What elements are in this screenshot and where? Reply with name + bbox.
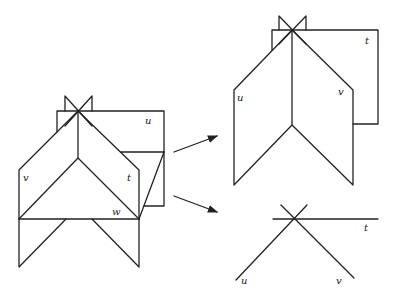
left-roof-outline: [19, 111, 139, 219]
left-figure: v t u w: [19, 96, 164, 267]
label-t: t: [365, 35, 370, 46]
label-v: v: [338, 86, 344, 97]
lower-right-figure: t u v: [236, 205, 378, 286]
label-v: v: [336, 275, 342, 286]
left-inner-triangle: [19, 158, 139, 219]
label-u: u: [237, 92, 243, 103]
lower-line-v: [281, 205, 354, 278]
lower-line-u: [236, 205, 307, 280]
label-t: t: [127, 172, 132, 183]
diagram-canvas: v t u w u v t t u v: [0, 0, 394, 299]
label-v: v: [23, 172, 29, 183]
arrow-to-lower: [174, 196, 217, 212]
label-u: u: [241, 275, 247, 286]
arrow-to-upper: [174, 136, 217, 152]
left-bottom-panels: [19, 219, 139, 267]
label-t: t: [364, 222, 369, 233]
upper-panels: [234, 30, 353, 185]
label-w: w: [112, 206, 121, 217]
left-diagonal-flap: [139, 152, 164, 219]
upper-right-figure: u v t: [234, 16, 378, 185]
upper-back-rectangle: [272, 30, 378, 124]
label-u: u: [145, 115, 151, 126]
